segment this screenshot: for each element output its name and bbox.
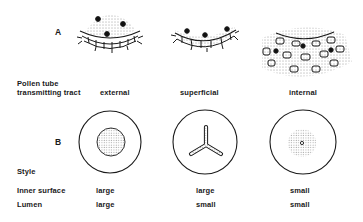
panel-label-b: B bbox=[55, 137, 61, 147]
style-cross-section-solid bbox=[270, 110, 336, 174]
row-label-style: Style bbox=[17, 167, 35, 176]
style-cross-section-open bbox=[79, 111, 141, 173]
lumen-internal: small bbox=[290, 200, 310, 209]
style-cross-section-trilobed bbox=[173, 110, 237, 174]
inner-surface-superficial: large bbox=[196, 186, 214, 195]
column-tract-external: external bbox=[100, 88, 130, 97]
inner-surface-internal: small bbox=[290, 186, 310, 195]
external-tract-cross-section bbox=[77, 15, 143, 53]
lumen-external: large bbox=[96, 200, 114, 209]
row-label-pollen-tube: Pollen tube bbox=[17, 79, 59, 88]
inner-surface-external: large bbox=[96, 186, 114, 195]
column-tract-superficial: superficial bbox=[180, 88, 219, 97]
column-tract-internal: internal bbox=[289, 88, 317, 97]
lumen-superficial: small bbox=[196, 200, 216, 209]
internal-tract-cross-section bbox=[262, 27, 352, 77]
panel-label-a: A bbox=[55, 27, 61, 37]
row-label-transmitting-tract: transmitting tract bbox=[17, 88, 80, 97]
superficial-tract-cross-section bbox=[171, 26, 239, 52]
row-label-inner-surface: Inner surface bbox=[17, 186, 65, 195]
row-label-lumen: Lumen bbox=[17, 200, 42, 209]
